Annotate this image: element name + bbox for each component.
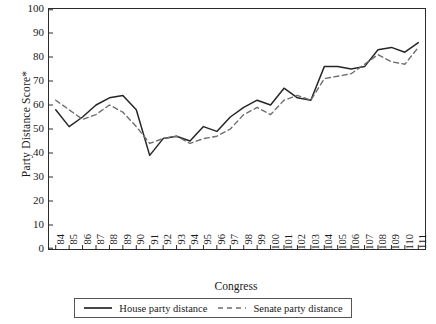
legend-label-senate: Senate party distance [253,303,342,314]
x-axis-title: Congress [48,280,424,292]
x-tick-label: 89 [122,234,133,264]
x-tick-label: 84 [55,234,66,264]
plot-area [48,8,426,250]
x-tick-label: 87 [95,234,106,264]
legend-solid-line-icon [83,304,113,312]
x-tick-label: 99 [256,234,267,264]
x-tick-label: 95 [202,234,213,264]
legend-item-senate: Senate party distance [217,303,342,314]
x-axis-tick-labels: 8485868788899091929394959697989910010110… [48,249,426,283]
x-tick-label: 98 [243,234,254,264]
y-tick-label: 100 [16,3,44,14]
x-tick-label: 90 [135,234,146,264]
x-tick-label: 100 [270,234,281,264]
x-tick-label: 107 [364,234,375,264]
x-tick-label: 101 [283,234,294,264]
y-tick-label: 20 [16,195,44,206]
chart-figure: Party Distance Score* 010203040506070809… [0,0,436,324]
chart-legend: House party distance Senate party distan… [74,298,352,318]
x-tick-label: 94 [189,234,200,264]
y-tick-label: 10 [16,219,44,230]
x-tick-label: 106 [350,234,361,264]
y-tick-label: 0 [16,243,44,254]
y-tick-label: 60 [16,99,44,110]
x-tick-label: 91 [149,234,160,264]
y-tick-label: 80 [16,51,44,62]
x-tick-label: 103 [310,234,321,264]
x-tick-label: 85 [68,234,79,264]
x-tick-label: 93 [176,234,187,264]
x-tick-label: 109 [390,234,401,264]
x-tick-label: 110 [404,234,415,264]
legend-label-house: House party distance [119,303,207,314]
x-tick-label: 108 [377,234,388,264]
y-tick-label: 30 [16,171,44,182]
x-tick-label: 104 [323,234,334,264]
legend-dashed-line-icon [217,304,247,312]
x-tick-label: 105 [337,234,348,264]
series-line-house [56,43,419,156]
y-tick-label: 40 [16,147,44,158]
x-tick-label: 92 [162,234,173,264]
y-tick-label: 70 [16,75,44,86]
x-tick-label: 88 [108,234,119,264]
legend-item-house: House party distance [83,303,207,314]
y-axis-tick-labels: 0102030405060708090100 [16,0,44,256]
x-tick-label: 86 [82,234,93,264]
y-tick-label: 50 [16,123,44,134]
y-axis-ticks [49,10,418,249]
series-line-senate [56,47,419,143]
x-tick-label: 96 [216,234,227,264]
chart-lines [49,9,425,249]
x-tick-label: 97 [229,234,240,264]
x-tick-label: 111 [417,234,428,264]
y-tick-label: 90 [16,27,44,38]
x-tick-label: 102 [296,234,307,264]
